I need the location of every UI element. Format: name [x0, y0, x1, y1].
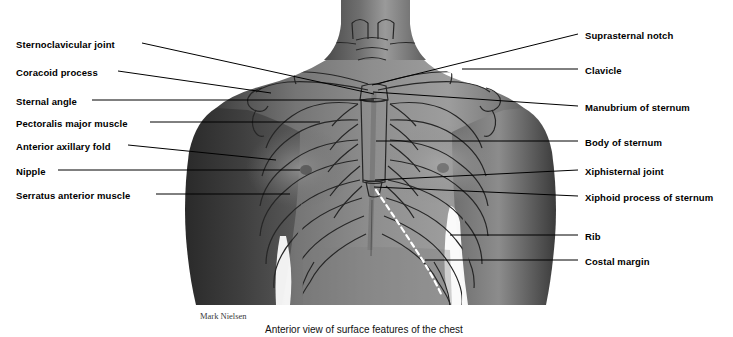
torso-photograph	[185, 0, 556, 305]
label-body-of-sternum: Body of sternum	[585, 137, 662, 148]
label-xiphoid-process-of-sternum: Xiphoid process of sternum	[585, 192, 713, 203]
label-pectoralis-major-muscle: Pectoralis major muscle	[16, 118, 128, 129]
label-manubrium-of-sternum: Manubrium of sternum	[585, 102, 690, 113]
label-clavicle: Clavicle	[585, 65, 622, 76]
figure-caption: Anterior view of surface features of the…	[265, 324, 463, 335]
label-suprasternal-notch: Suprasternal notch	[585, 30, 673, 41]
label-xiphisternal-joint: Xiphisternal joint	[585, 166, 664, 177]
label-costal-margin: Costal margin	[585, 256, 650, 267]
label-anterior-axillary-fold: Anterior axillary fold	[16, 141, 111, 152]
label-coracoid-process: Coracoid process	[16, 67, 98, 78]
photo-credit: Mark Nielsen	[200, 311, 247, 321]
label-rib: Rib	[585, 231, 601, 242]
label-serratus-anterior-muscle: Serratus anterior muscle	[16, 190, 130, 201]
label-sternoclavicular-joint: Sternoclavicular joint	[16, 39, 115, 50]
label-sternal-angle: Sternal angle	[16, 96, 77, 107]
leader-line-coracoid-process	[118, 71, 271, 93]
anatomy-figure: Sternoclavicular jointCoracoid processSt…	[0, 0, 733, 337]
label-nipple: Nipple	[16, 166, 46, 177]
